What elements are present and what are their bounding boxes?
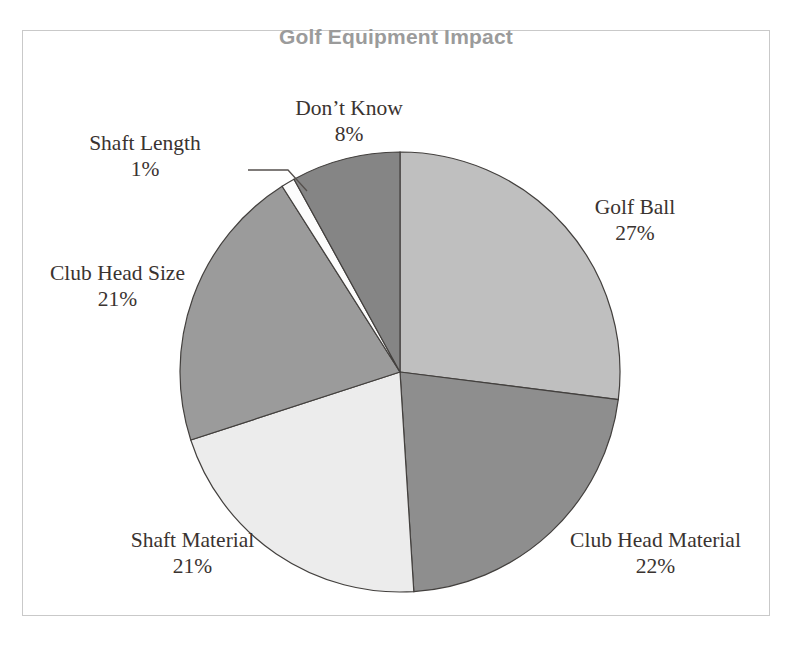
pie-slice-label-shaft-material: Shaft Material 21%: [75, 527, 310, 579]
pie-slice-label-club-head-size: Club Head Size 21%: [10, 260, 225, 312]
slice-label-value: 8%: [204, 121, 494, 147]
slice-label-value: 1%: [30, 156, 260, 182]
slice-label-name: Shaft Material: [75, 527, 310, 553]
slice-label-name: Don’t Know: [204, 95, 494, 121]
slice-label-name: Club Head Material: [528, 527, 783, 553]
slice-label-value: 27%: [530, 220, 740, 246]
pie-slice-label-golf-ball: Golf Ball 27%: [530, 194, 740, 246]
slice-label-name: Club Head Size: [10, 260, 225, 286]
pie-slice-label-dont-know: Don’t Know 8%: [204, 95, 494, 147]
slice-label-value: 21%: [75, 553, 310, 579]
slice-label-name: Golf Ball: [530, 194, 740, 220]
chart-screenshot: Golf Equipment Impact Golf Ball 27% Club…: [0, 0, 792, 645]
pie-slice-golf-ball[interactable]: [400, 152, 620, 400]
slice-label-value: 22%: [528, 553, 783, 579]
pie-slice-label-club-head-material: Club Head Material 22%: [528, 527, 783, 579]
slice-label-value: 21%: [10, 286, 225, 312]
